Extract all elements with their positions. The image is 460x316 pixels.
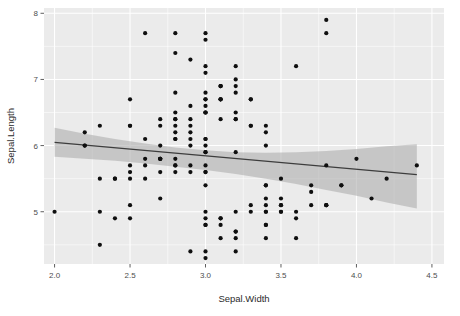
data-point [158, 124, 162, 128]
data-point [279, 203, 283, 207]
data-point [249, 124, 253, 128]
data-point [339, 183, 343, 187]
data-point [128, 124, 132, 128]
data-point [203, 143, 207, 147]
data-point [83, 130, 87, 134]
data-point [203, 183, 207, 187]
data-point [264, 143, 268, 147]
data-point [188, 130, 192, 134]
data-point [294, 210, 298, 214]
data-point [113, 177, 117, 181]
data-point [219, 117, 223, 121]
data-point [324, 18, 328, 22]
data-point [415, 163, 419, 167]
data-point [369, 196, 373, 200]
data-point [354, 157, 358, 161]
data-point [128, 163, 132, 167]
data-point [324, 31, 328, 35]
y-tick-label: 7 [34, 75, 39, 84]
data-point [203, 170, 207, 174]
data-point [188, 163, 192, 167]
data-point [234, 150, 238, 154]
data-point [173, 163, 177, 167]
data-point [173, 110, 177, 114]
data-point [173, 124, 177, 128]
data-point [264, 223, 268, 227]
data-point [309, 203, 313, 207]
data-point [234, 229, 238, 233]
x-tick-label: 2.0 [49, 271, 61, 280]
data-point [188, 143, 192, 147]
data-point [219, 216, 223, 220]
data-point [249, 203, 253, 207]
data-point [128, 177, 132, 181]
data-point [234, 117, 238, 121]
data-point [143, 177, 147, 181]
data-point [188, 137, 192, 141]
y-tick-label: 6 [34, 142, 39, 151]
data-point [309, 190, 313, 194]
data-point [203, 216, 207, 220]
x-tick-label: 4.5 [426, 271, 438, 280]
data-point [128, 216, 132, 220]
data-point [203, 64, 207, 68]
data-point [234, 84, 238, 88]
data-point [143, 31, 147, 35]
data-point [279, 196, 283, 200]
data-point [234, 249, 238, 253]
data-point [173, 51, 177, 55]
data-point [203, 71, 207, 75]
data-point [234, 91, 238, 95]
data-point [203, 38, 207, 42]
data-point [188, 249, 192, 253]
data-point [173, 117, 177, 121]
y-axis-title: Sepal.Length [5, 108, 16, 164]
data-point [173, 170, 177, 174]
data-point [234, 64, 238, 68]
data-point [188, 170, 192, 174]
data-point [264, 203, 268, 207]
data-point [219, 84, 223, 88]
data-point [203, 163, 207, 167]
data-point [294, 216, 298, 220]
data-point [203, 31, 207, 35]
data-point [234, 210, 238, 214]
data-point [203, 137, 207, 141]
data-point [52, 210, 56, 214]
data-point [158, 143, 162, 147]
scatter-plot-figure: 2.02.53.03.54.04.5 5678 Sepal.Width Sepa… [0, 0, 460, 316]
x-tick-label: 3.0 [200, 271, 212, 280]
data-point [113, 216, 117, 220]
plot-canvas: 2.02.53.03.54.04.5 5678 Sepal.Width Sepa… [0, 0, 460, 316]
data-point [83, 143, 87, 147]
data-point [143, 137, 147, 141]
data-point [324, 163, 328, 167]
data-point [173, 31, 177, 35]
data-point [203, 97, 207, 101]
data-point [203, 104, 207, 108]
data-point [203, 91, 207, 95]
data-point [203, 150, 207, 154]
data-point [234, 77, 238, 81]
data-point [264, 236, 268, 240]
data-point [219, 223, 223, 227]
data-point [203, 210, 207, 214]
data-point [294, 236, 298, 240]
data-point [143, 157, 147, 161]
data-point [173, 130, 177, 134]
data-point [173, 91, 177, 95]
data-point [203, 256, 207, 260]
data-point [128, 170, 132, 174]
data-point [203, 110, 207, 114]
data-point [279, 177, 283, 181]
data-point [188, 57, 192, 61]
data-point [173, 137, 177, 141]
data-point [294, 64, 298, 68]
data-point [264, 183, 268, 187]
x-tick-label: 4.0 [351, 271, 363, 280]
data-point [264, 130, 268, 134]
data-point [158, 117, 162, 121]
data-point [128, 203, 132, 207]
data-point [219, 236, 223, 240]
data-point [173, 157, 177, 161]
